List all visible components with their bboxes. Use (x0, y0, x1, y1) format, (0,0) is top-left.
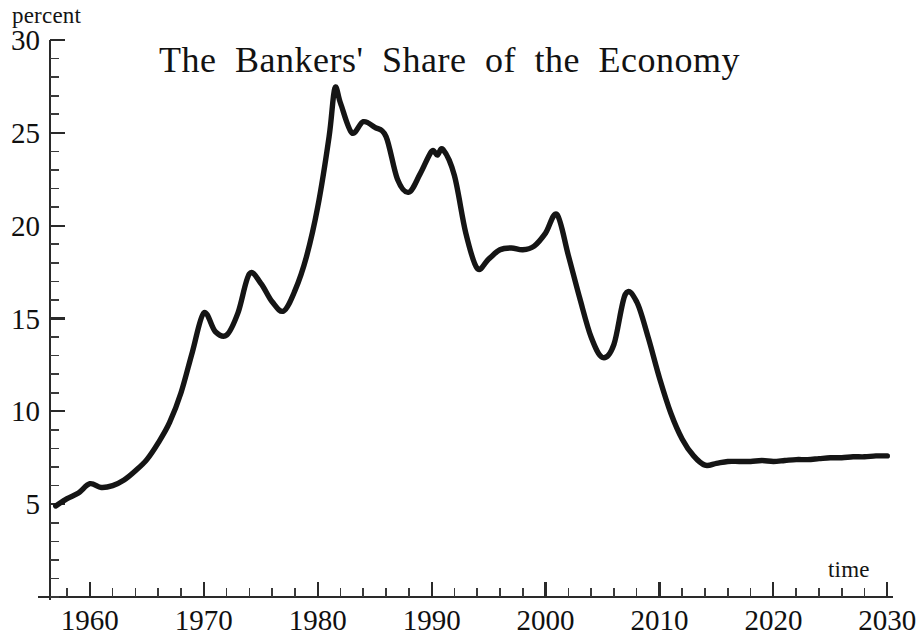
x-tick-label: 2010 (630, 606, 688, 635)
y-tick-label: 20 (0, 211, 40, 240)
x-tick-label: 1990 (403, 606, 461, 635)
y-tick-label: 30 (0, 26, 40, 55)
x-ticks-group (67, 582, 887, 597)
x-tick-label: 2030 (858, 606, 916, 635)
y-tick-label: 5 (0, 490, 40, 519)
x-tick-label: 2000 (517, 606, 575, 635)
x-tick-label: 1980 (289, 606, 347, 635)
y-tick-label: 15 (0, 304, 40, 333)
y-ticks-group (50, 40, 65, 597)
x-tick-label: 1970 (175, 606, 233, 635)
data-series-group (56, 87, 888, 506)
x-tick-label: 2020 (744, 606, 802, 635)
axes-group (38, 40, 893, 600)
x-tick-label: 1960 (61, 606, 119, 635)
y-tick-label: 10 (0, 397, 40, 426)
data-line-0 (56, 87, 888, 506)
y-tick-label: 25 (0, 118, 40, 147)
